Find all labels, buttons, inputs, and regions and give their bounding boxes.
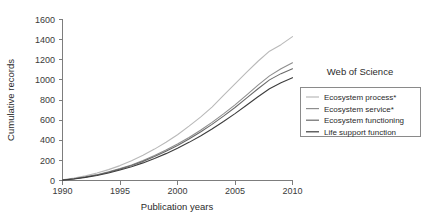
legend-label-3: Life support function — [324, 128, 396, 137]
x-tick-label: 1990 — [52, 186, 72, 196]
x-tick-label: 2010 — [282, 186, 302, 196]
y-tick-label: 200 — [40, 156, 55, 166]
y-axis-title: Cumulative records — [5, 59, 16, 141]
x-tick-label: 2005 — [225, 186, 245, 196]
y-tick-label: 1600 — [35, 15, 55, 25]
line-chart: 02004006008001000120014001600 1990199520… — [0, 0, 426, 224]
series-line-3 — [63, 78, 293, 180]
y-tick-label: 1000 — [35, 75, 55, 85]
chart-axes — [63, 20, 293, 181]
y-tick-label: 1200 — [35, 55, 55, 65]
series-line-0 — [63, 37, 293, 180]
legend-label-1: Ecosystem service* — [324, 105, 394, 114]
y-tick-label: 400 — [40, 135, 55, 145]
y-tick-label: 800 — [40, 95, 55, 105]
x-tick-label: 2000 — [167, 186, 187, 196]
x-axis-title: Publication years — [141, 201, 214, 212]
legend-label-0: Ecosystem process* — [324, 93, 396, 102]
y-tick-label: 600 — [40, 115, 55, 125]
y-axis-ticks: 02004006008001000120014001600 — [35, 15, 63, 186]
x-tick-label: 1995 — [110, 186, 130, 196]
x-axis-ticks: 19901995200020052010 — [52, 181, 302, 197]
legend-title: Web of Science — [327, 66, 393, 77]
y-tick-label: 0 — [50, 176, 55, 186]
legend-items: Ecosystem process*Ecosystem service*Ecos… — [306, 93, 404, 137]
legend-label-2: Ecosystem functioning — [324, 116, 404, 125]
series-lines — [63, 37, 293, 180]
chart-figure: 02004006008001000120014001600 1990199520… — [0, 0, 426, 224]
series-line-1 — [63, 63, 293, 180]
legend: Web of Science Ecosystem process*Ecosyst… — [301, 66, 421, 137]
y-tick-label: 1400 — [35, 35, 55, 45]
